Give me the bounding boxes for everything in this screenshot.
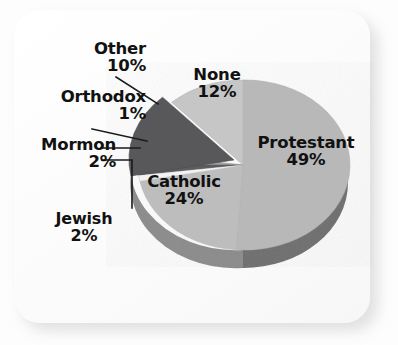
label-catholic-name: Catholic [136, 173, 232, 190]
label-protestant-value: 49% [245, 151, 367, 168]
pie-chart-figure: Other 10% Orthodox 1% Mormon 2% Jewish 2… [0, 0, 398, 345]
label-other: Other 10% [36, 40, 146, 74]
label-none-value: 12% [180, 83, 254, 100]
label-other-name: Other [36, 40, 146, 57]
label-jewish: Jewish 2% [36, 211, 132, 244]
label-jewish-value: 2% [36, 228, 132, 245]
label-orthodox-name: Orthodox [6, 88, 146, 105]
label-mormon-value: 2% [6, 153, 116, 170]
label-protestant-name: Protestant [245, 134, 367, 151]
label-none: None 12% [180, 66, 254, 100]
label-mormon: Mormon 2% [6, 136, 116, 170]
label-none-name: None [180, 66, 254, 83]
label-orthodox: Orthodox 1% [6, 88, 146, 122]
label-orthodox-value: 1% [6, 105, 146, 122]
label-protestant: Protestant 49% [245, 134, 367, 168]
label-catholic: Catholic 24% [136, 173, 232, 207]
label-catholic-value: 24% [136, 190, 232, 207]
label-other-value: 10% [36, 57, 146, 74]
label-mormon-name: Mormon [6, 136, 116, 153]
